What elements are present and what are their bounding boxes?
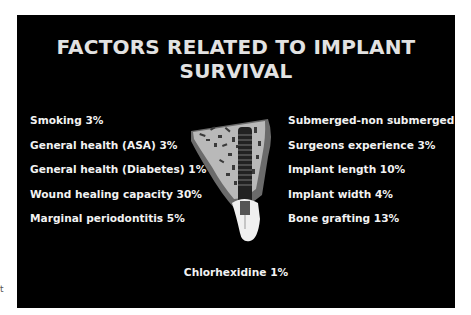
title-line-2: SURVIVAL	[17, 59, 455, 83]
factor-item: Implant width 4%	[288, 187, 455, 212]
factor-item: Bone grafting 13%	[288, 211, 455, 236]
factor-item: Surgeons experience 3%	[288, 138, 455, 163]
cropped-text-fragment: t	[0, 284, 4, 294]
factor-item: General health (ASA) 3%	[30, 138, 206, 163]
factor-item: General health (Diabetes) 1%	[30, 162, 206, 187]
factor-item: Marginal periodontitis 5%	[30, 211, 206, 236]
right-factor-list: Submerged-non submerged 7% Surgeons expe…	[288, 113, 455, 236]
slide-title: FACTORS RELATED TO IMPLANT SURVIVAL	[17, 35, 455, 83]
factor-item: Submerged-non submerged 7%	[288, 113, 455, 138]
slide: FACTORS RELATED TO IMPLANT SURVIVAL Smok…	[17, 15, 455, 308]
factor-item: Implant length 10%	[288, 162, 455, 187]
bottom-factor: Chlorhexidine 1%	[17, 265, 455, 279]
factor-item: Smoking 3%	[30, 113, 206, 138]
factor-item: Wound healing capacity 30%	[30, 187, 206, 212]
left-factor-list: Smoking 3% General health (ASA) 3% Gener…	[30, 113, 206, 236]
title-line-1: FACTORS RELATED TO IMPLANT	[17, 35, 455, 59]
dental-implant-in-bone-icon	[188, 115, 278, 245]
